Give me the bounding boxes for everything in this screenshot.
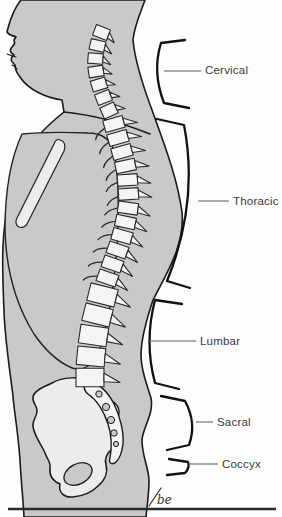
anatomy-illustration: Cervical Thoracic Lumbar Sacral Coccyx b… xyxy=(0,0,282,517)
label-sacral: Sacral xyxy=(217,416,251,428)
spine-diagram: Cervical Thoracic Lumbar Sacral Coccyx b… xyxy=(0,0,282,517)
bracket-coccyx xyxy=(167,459,189,475)
label-thoracic: Thoracic xyxy=(233,195,279,207)
bracket-lumbar xyxy=(150,300,183,389)
bracket-sacral xyxy=(161,396,192,450)
artist-signature: be xyxy=(149,488,172,507)
signature-text: be xyxy=(157,493,172,507)
label-lumbar: Lumbar xyxy=(200,335,240,347)
label-cervical: Cervical xyxy=(205,64,248,76)
label-coccyx: Coccyx xyxy=(222,458,261,470)
bracket-cervical xyxy=(157,40,189,108)
